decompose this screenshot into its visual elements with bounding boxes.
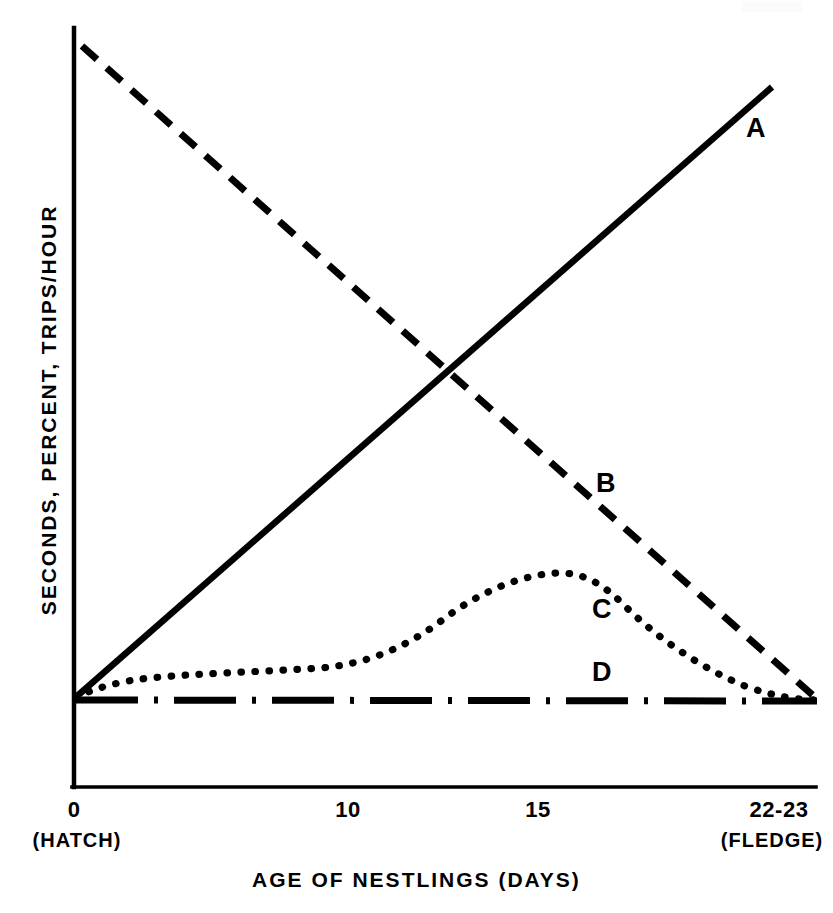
x-tick-label-0: 0 [50,797,98,823]
x-tick-label-10: 10 [318,797,378,823]
x-tick-label-22-23: 22-23 [709,797,833,823]
series-line-d [76,700,817,701]
x-tick-label-15: 15 [508,797,568,823]
series-label-a: A [746,113,766,144]
x-tick-sublabel-fledge: (FLEDGE) [697,829,833,852]
series-line-c [76,573,817,700]
series-label-d: D [592,657,612,688]
series-label-b: B [596,468,616,499]
series-line-a [76,87,772,697]
figure-chart: SECONDS, PERCENT, TRIPS/HOUR AGE OF NEST… [0,0,833,913]
series-label-c: C [592,594,612,625]
x-tick-sublabel-hatch: (HATCH) [22,829,132,852]
y-axis-title: SECONDS, PERCENT, TRIPS/HOUR [37,185,61,635]
x-axis-title: AGE OF NESTLINGS (DAYS) [0,868,833,892]
plot-area [0,0,833,913]
